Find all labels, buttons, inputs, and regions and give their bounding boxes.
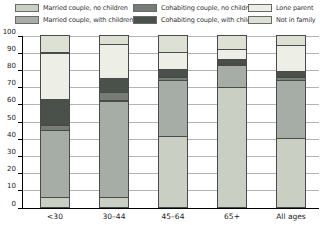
x-axis-category-label: All ages [276,212,306,221]
bar-segment [276,138,306,208]
legend-label: Married couple, with children [43,16,133,24]
bar-segment [99,197,129,208]
plot-area: 0102030405060708090100<3030–4445–6465+Al… [22,36,319,209]
legend-item: Cohabiting couple, with children [133,15,261,25]
bar-segment [40,197,70,208]
y-axis-tick [18,139,22,140]
legend-item: Married couple, no children [15,3,128,13]
y-axis-tick-label: 90 [7,45,16,53]
bar-segment [40,125,70,131]
legend-swatch-icon [133,16,157,24]
legend-item: Lone parent [248,3,313,13]
legend-swatch-icon [15,4,39,12]
bar-segment [217,65,247,88]
legend-label: Cohabiting couple, no children [161,4,256,12]
legend-label: Not in family [276,16,316,24]
bar-segment [158,35,188,53]
bar-segment [99,78,129,93]
y-axis-tick [18,70,22,71]
bar-segment [99,35,129,45]
bar-segment [158,77,188,81]
y-axis-tick [18,122,22,123]
y-axis-tick [18,190,22,191]
y-axis-tick [18,173,22,174]
bar-segment [217,49,247,60]
bar-65- [217,36,247,208]
bar-45-64 [158,36,188,208]
y-axis-tick [18,208,22,209]
x-axis-category-label: 65+ [224,212,240,221]
bar-segment [217,60,247,64]
bar-segment [40,35,70,53]
y-axis-tick-label: 50 [7,114,16,122]
bar-segment [276,80,306,139]
y-axis-tick [18,36,22,37]
bar-segment [99,44,129,79]
y-axis-tick-label: 20 [7,165,16,173]
bar-segment [158,69,188,77]
x-axis-category-label: 45–64 [162,212,185,221]
legend-item: Married couple, with children [15,15,133,25]
bar-segment [276,45,306,72]
y-axis-tick-label: 10 [7,182,16,190]
bar-segment [40,130,70,198]
bar-segment [158,136,188,208]
bar-segment [276,77,306,81]
y-axis-tick [18,156,22,157]
legend-swatch-icon [15,16,39,24]
bar--30 [40,36,70,208]
bar-segment [40,98,70,125]
legend-item: Cohabiting couple, no children [133,3,256,13]
bar-segment [217,87,247,208]
bar-all-ages [276,36,306,208]
stacked-bar-chart: Married couple, no childrenMarried coupl… [0,0,324,225]
legend-swatch-icon [248,16,272,24]
chart-legend: Married couple, no childrenMarried coupl… [0,0,324,30]
y-axis-tick-label: 60 [7,96,16,104]
bar-30-44 [99,36,129,208]
y-axis-tick [18,104,22,105]
y-axis-tick-label: 40 [7,131,16,139]
y-axis-tick [18,87,22,88]
bar-segment [40,53,70,100]
y-axis-tick [18,53,22,54]
bar-segment [99,101,129,198]
legend-item: Not in family [248,15,316,25]
x-axis-category-label: <30 [47,212,63,221]
bar-segment [217,35,247,50]
bar-segment [276,35,306,46]
y-axis-tick-label: 0 [12,200,16,208]
x-axis-category-label: 30–44 [103,212,126,221]
y-axis-tick-label: 70 [7,79,16,87]
y-axis-tick-label: 100 [3,28,16,36]
legend-label: Lone parent [276,4,313,12]
legend-label: Married couple, no children [43,4,128,12]
bar-segment [158,52,188,70]
legend-swatch-icon [248,4,272,12]
y-axis-tick-label: 30 [7,148,16,156]
bar-segment [158,79,188,137]
legend-swatch-icon [133,4,157,12]
legend-label: Cohabiting couple, with children [161,16,261,24]
y-axis-tick-label: 80 [7,62,16,70]
